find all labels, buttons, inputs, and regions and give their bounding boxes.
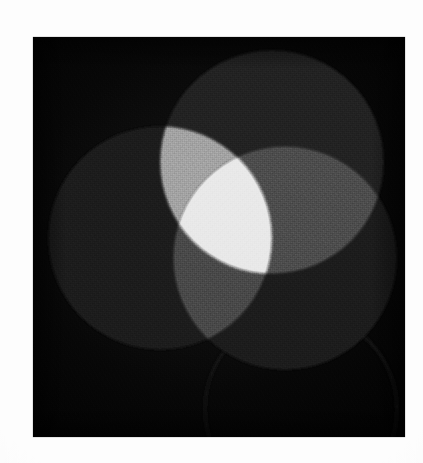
photographic-plate — [33, 37, 405, 437]
additive-mixing-figure — [33, 37, 405, 437]
page-canvas: Three overlapping circles of light photo… — [0, 0, 423, 463]
mixing-diagram-svg — [33, 37, 405, 437]
